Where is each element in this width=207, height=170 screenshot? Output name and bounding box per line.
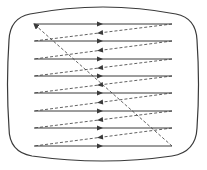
horizontal-retrace-line [34, 24, 172, 41]
arrow-right-icon [97, 74, 103, 79]
arrow-left-icon [97, 135, 104, 141]
arrow-left-icon [97, 30, 104, 35]
arrow-left-icon [97, 48, 104, 54]
horizontal-retrace-line [34, 128, 172, 146]
horizontal-retrace-line [34, 59, 172, 76]
arrow-right-icon [97, 57, 103, 62]
arrow-left-icon [97, 100, 104, 106]
horizontal-retrace-line [34, 41, 172, 59]
arrow-right-icon [97, 126, 103, 131]
arrow-right-icon [97, 91, 103, 96]
arrow-right-icon [97, 109, 103, 114]
horizontal-retrace-line [34, 93, 172, 111]
horizontal-retrace-line [34, 111, 172, 128]
arrow-left-icon [97, 65, 104, 70]
arrow-right-icon [97, 22, 103, 27]
arrow-left-icon [97, 117, 104, 122]
arrow-right-icon [97, 39, 103, 44]
arrow-right-icon [97, 144, 103, 149]
raster-scan-diagram [0, 0, 207, 170]
